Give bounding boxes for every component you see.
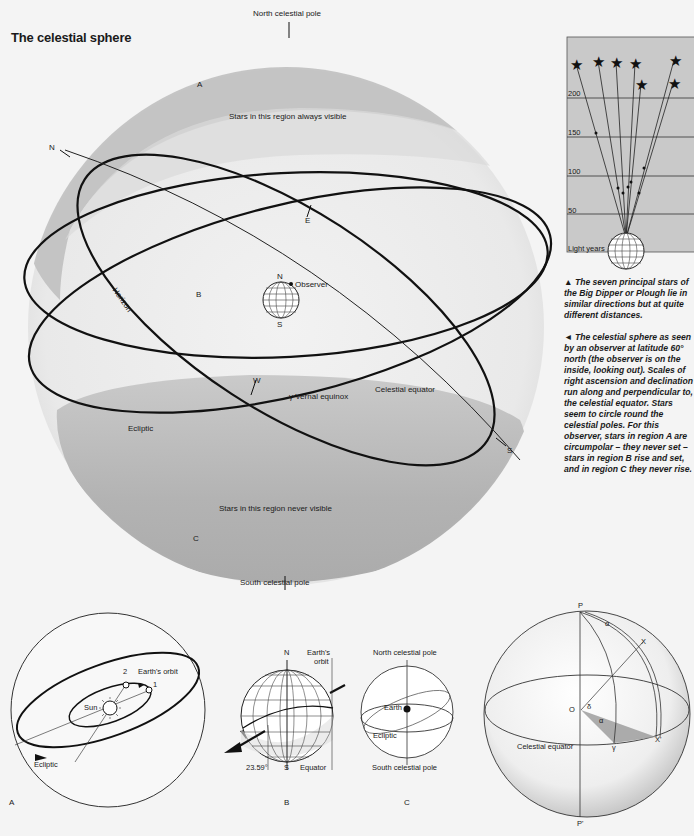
globe-n-label: N bbox=[277, 272, 283, 281]
svg-text:★: ★ bbox=[592, 53, 605, 70]
panel-d-o: O bbox=[569, 705, 575, 714]
panel-b-earth bbox=[224, 658, 345, 770]
region-c-cap bbox=[57, 375, 525, 583]
observer-label: Observer bbox=[295, 280, 328, 289]
compass-w-label: W bbox=[253, 376, 261, 385]
observer-dot bbox=[289, 282, 293, 286]
compass-e-label: E bbox=[305, 216, 310, 225]
compass-s-label: S bbox=[507, 446, 512, 455]
panel-c-south: South celestial pole bbox=[372, 763, 437, 772]
north-celestial-pole-label: North celestial pole bbox=[253, 9, 321, 18]
panel-b-n: N bbox=[284, 648, 289, 657]
region-c-label: C bbox=[193, 534, 199, 543]
page-title: The celestial sphere bbox=[11, 30, 131, 45]
svg-text:★: ★ bbox=[635, 76, 648, 93]
globe-s-label: S bbox=[277, 320, 282, 329]
panel-d-x-prime: X' bbox=[655, 735, 661, 744]
panel-a-sun: Sun bbox=[84, 703, 97, 712]
tick-150: 150 bbox=[568, 128, 581, 137]
ecliptic-label: Ecliptic bbox=[128, 424, 153, 433]
tick-200: 200 bbox=[568, 89, 581, 98]
region-b-label: B bbox=[196, 290, 201, 299]
panel-a-diagram bbox=[5, 613, 254, 807]
panel-d-p-prime: P' bbox=[577, 819, 583, 828]
big-dipper-chart: ★ ★ ★ ★ ★ ★ ★ bbox=[567, 37, 694, 269]
celestial-sphere-caption: ◄ The celestial sphere as seen by an obs… bbox=[564, 332, 694, 475]
panel-b-orbit-2: orbit bbox=[314, 657, 329, 666]
south-celestial-pole-label: South celestial pole bbox=[240, 578, 309, 587]
svg-text:★: ★ bbox=[669, 52, 682, 69]
panel-b-tilt: 23.59° bbox=[246, 763, 268, 772]
panel-d-delta: δ bbox=[587, 702, 591, 711]
panel-a-ecliptic: Ecliptic bbox=[34, 760, 58, 769]
tick-100: 100 bbox=[568, 167, 581, 176]
panel-a-pos1: 1 bbox=[153, 680, 157, 689]
panel-d-celestial-equator: Celestial equator bbox=[517, 742, 573, 751]
compass-n-label: N bbox=[49, 143, 55, 152]
celestial-equator-label: Celestial equator bbox=[375, 385, 435, 394]
region-a-label: A bbox=[197, 80, 202, 89]
panel-d-x: X bbox=[641, 637, 646, 646]
panel-d-alpha-top: α bbox=[605, 619, 609, 628]
panel-a-letter: A bbox=[9, 798, 14, 807]
vernal-equinox-label: γ Vernal equinox bbox=[289, 392, 348, 401]
panel-a-pos2: 2 bbox=[123, 667, 127, 676]
panel-d-gamma: γ bbox=[612, 743, 616, 752]
tick-50: 50 bbox=[568, 206, 576, 215]
never-visible-label: Stars in this region never visible bbox=[219, 504, 332, 513]
panel-d-p: P bbox=[578, 601, 583, 610]
observer-globe bbox=[263, 282, 299, 318]
always-visible-label: Stars in this region always visible bbox=[229, 112, 346, 121]
panel-c-ecliptic: Ecliptic bbox=[373, 731, 397, 740]
panel-b-equator: Equator bbox=[300, 763, 326, 772]
svg-text:★: ★ bbox=[570, 56, 583, 73]
light-years-label: Light years bbox=[568, 244, 605, 253]
panel-c-sphere bbox=[359, 660, 455, 765]
panel-d-coordinates bbox=[484, 611, 690, 817]
svg-text:★: ★ bbox=[668, 75, 681, 92]
svg-text:★: ★ bbox=[629, 55, 642, 72]
panel-a-earths-orbit: Earth's orbit bbox=[138, 667, 178, 676]
panel-c-earth: Earth bbox=[384, 703, 402, 712]
panel-b-letter: B bbox=[284, 798, 289, 807]
panel-c-letter: C bbox=[404, 798, 410, 807]
svg-text:★: ★ bbox=[610, 54, 623, 71]
panel-d-alpha: α bbox=[599, 716, 603, 725]
panel-c-north: North celestial pole bbox=[373, 648, 437, 657]
big-dipper-caption: ▲ The seven principal stars of the Big D… bbox=[564, 277, 694, 321]
panel-b-orbit-1: Earth's bbox=[307, 648, 330, 657]
panel-b-s: S bbox=[284, 763, 289, 772]
